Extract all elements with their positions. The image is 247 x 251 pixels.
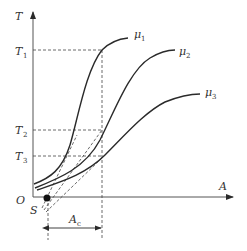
svg-text:1: 1	[23, 52, 27, 60]
curve-mu2	[35, 50, 175, 188]
svg-text:2: 2	[23, 131, 27, 139]
level-label-t2: T2	[15, 124, 27, 139]
svg-text:c: c	[77, 220, 81, 228]
s-point-label: S	[30, 204, 38, 217]
x-axis-label: A	[218, 180, 227, 193]
svg-text:1: 1	[141, 35, 145, 43]
tangent-mu3	[46, 158, 102, 212]
ac-interval-label: Ac	[68, 213, 81, 228]
magnetization-diagram: T A O T1 T2 T3 μ1 μ2 μ3 S	[0, 0, 247, 251]
curve-label-mu3: μ3	[205, 86, 216, 101]
svg-text:3: 3	[212, 93, 216, 101]
svg-text:3: 3	[23, 157, 27, 165]
curve-label-mu1: μ1	[134, 28, 145, 43]
level-label-t3: T3	[15, 150, 27, 165]
curve-label-mu2: μ2	[179, 45, 190, 60]
origin-label: O	[16, 194, 25, 207]
svg-text:A: A	[68, 213, 77, 226]
y-axis-label: T	[15, 10, 24, 23]
svg-text:2: 2	[186, 52, 190, 60]
s-point	[44, 195, 51, 202]
level-label-t1: T1	[15, 45, 27, 60]
